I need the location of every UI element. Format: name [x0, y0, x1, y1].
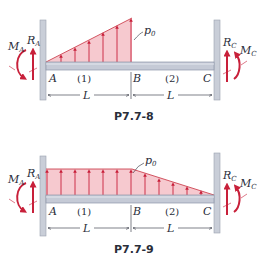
segment-label-2: (2) — [165, 73, 179, 84]
length-label-bc: L — [166, 89, 174, 102]
right-reactions: RC MC — [222, 36, 257, 82]
point-label-a: A — [48, 72, 57, 85]
right-wall — [214, 153, 220, 233]
reaction-label-ma: MA — [7, 173, 24, 187]
reaction-label-mc: MC — [239, 44, 257, 58]
p0-leader — [134, 32, 143, 40]
left-reactions: RA MA — [7, 34, 40, 80]
beam-diagrams: p0 A (1) B (2) C L L RA MA — [0, 0, 264, 266]
reaction-label-rc: RC — [222, 169, 237, 183]
reaction-label-ra: RA — [26, 167, 40, 181]
point-label-c: C — [203, 205, 212, 218]
point-label-b: B — [132, 72, 141, 85]
figure-caption: P7.7-8 — [114, 110, 154, 123]
reaction-label-ra: RA — [26, 34, 40, 48]
length-label-ab: L — [82, 222, 90, 235]
reaction-label-mc: MC — [239, 177, 257, 191]
point-label-c: C — [203, 72, 212, 85]
figure-caption: P7.7-9 — [114, 243, 154, 256]
beam — [46, 195, 214, 203]
left-wall — [40, 156, 46, 236]
load-label-p0: p0 — [144, 24, 156, 38]
dimension-lines — [48, 72, 212, 99]
reaction-moment-arrow-ma — [17, 183, 26, 211]
length-label-ab: L — [82, 89, 90, 102]
reaction-moment-arrow-mc — [234, 54, 240, 79]
reaction-label-rc: RC — [222, 36, 237, 50]
load-label-p0: p0 — [145, 154, 157, 168]
left-reactions: RA MA — [7, 167, 40, 213]
reaction-moment-arrow-mc — [234, 187, 240, 212]
point-label-a: A — [48, 205, 57, 218]
beam — [46, 62, 214, 70]
point-label-b: B — [132, 205, 141, 218]
diagram-p7-7-8: p0 A (1) B (2) C L L RA MA — [7, 18, 257, 123]
segment-label-1: (1) — [77, 73, 91, 84]
left-wall — [40, 20, 46, 100]
distributed-load — [46, 169, 214, 195]
right-reactions: RC MC — [222, 169, 257, 215]
segment-label-2: (2) — [165, 206, 179, 217]
reaction-label-ma: MA — [7, 40, 24, 54]
right-wall — [214, 20, 220, 100]
length-label-bc: L — [166, 222, 174, 235]
dimension-lines — [48, 205, 212, 232]
segment-label-1: (1) — [77, 206, 91, 217]
reaction-moment-arrow-ma — [17, 50, 26, 78]
diagram-p7-7-9: p0 A (1) B (2) C L L RA MA — [7, 153, 257, 256]
